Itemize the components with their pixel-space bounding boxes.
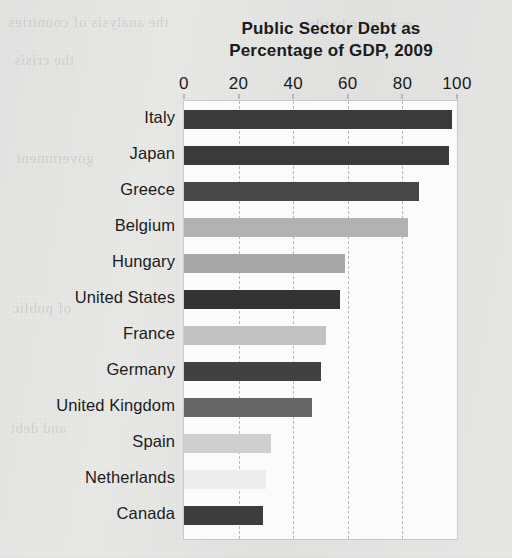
x-tick-label-80: 80 <box>393 74 413 94</box>
gridline-60 <box>348 101 349 539</box>
y-label-united-kingdom: United Kingdom <box>56 396 175 415</box>
y-axis-category-labels: ItalyJapanGreeceBelgiumHungaryUnited Sta… <box>0 101 178 539</box>
y-label-hungary: Hungary <box>112 252 175 271</box>
x-tick-mark-40 <box>293 94 294 99</box>
x-tick-mark-60 <box>347 94 348 99</box>
bar-japan <box>184 146 449 165</box>
x-tick-mark-0 <box>184 94 185 99</box>
bar-united-states <box>184 290 340 309</box>
x-tick-label-20: 20 <box>229 74 249 94</box>
y-label-belgium: Belgium <box>115 216 175 235</box>
bar-italy <box>184 110 452 129</box>
plot-area <box>184 101 457 539</box>
bar-greece <box>184 182 419 201</box>
x-axis: 020406080100 <box>184 74 457 96</box>
chart-title-line-1: Public Sector Debt as <box>186 18 476 40</box>
x-tick-label-40: 40 <box>283 74 303 94</box>
bar-france <box>184 326 326 345</box>
chart-title-line-2: Percentage of GDP, 2009 <box>186 40 476 62</box>
x-tick-mark-20 <box>238 94 239 99</box>
chart-title: Public Sector Debt as Percentage of GDP,… <box>186 18 476 62</box>
y-label-france: France <box>123 324 175 343</box>
bar-netherlands <box>184 470 266 489</box>
bar-hungary <box>184 254 345 273</box>
bar-united-kingdom <box>184 398 312 417</box>
bar-germany <box>184 362 321 381</box>
x-tick-label-60: 60 <box>338 74 358 94</box>
x-tick-label-100: 100 <box>442 74 471 94</box>
y-label-spain: Spain <box>132 432 175 451</box>
x-tick-mark-80 <box>402 94 403 99</box>
x-tick-mark-100 <box>457 94 458 99</box>
y-label-italy: Italy <box>144 108 175 127</box>
bar-canada <box>184 506 263 525</box>
y-label-greece: Greece <box>120 180 175 199</box>
bar-spain <box>184 434 271 453</box>
bar-chart: Public Sector Debt as Percentage of GDP,… <box>0 0 512 558</box>
y-label-germany: Germany <box>106 360 175 379</box>
y-label-japan: Japan <box>130 144 175 163</box>
gridline-40 <box>293 101 294 539</box>
y-label-netherlands: Netherlands <box>85 468 175 487</box>
y-label-united-states: United States <box>75 288 175 307</box>
bar-belgium <box>184 218 408 237</box>
y-label-canada: Canada <box>117 504 175 523</box>
gridline-80 <box>402 101 403 539</box>
x-tick-label-0: 0 <box>179 74 189 94</box>
